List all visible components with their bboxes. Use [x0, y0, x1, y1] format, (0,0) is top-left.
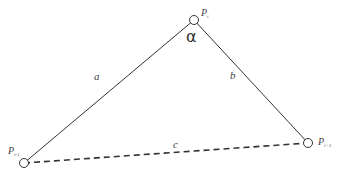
angle-alpha-label: α — [186, 29, 197, 45]
edge-b-label: b — [230, 70, 236, 81]
vertex-left-label: Pi-1 — [8, 146, 20, 157]
edge-a-label: a — [94, 71, 100, 82]
vertex-top-marker — [190, 16, 199, 25]
edge-a — [24, 20, 194, 163]
vertex-right-marker — [304, 139, 313, 148]
edge-c-label: c — [173, 139, 178, 150]
vertex-top-label: Pi — [201, 8, 209, 19]
edge-c — [24, 143, 308, 163]
edge-b — [194, 20, 308, 143]
triangle-diagram — [0, 0, 337, 175]
vertex-left-marker — [20, 159, 29, 168]
vertex-right-label: Pi+1 — [318, 137, 331, 148]
